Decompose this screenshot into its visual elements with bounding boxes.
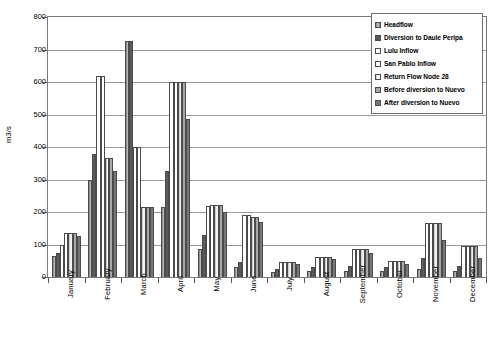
y-tick-label: 800 bbox=[12, 13, 46, 21]
x-tick-mark bbox=[158, 278, 159, 283]
bar bbox=[259, 222, 263, 277]
x-tick-label: December bbox=[468, 266, 477, 302]
y-tick-label: 700 bbox=[12, 46, 46, 54]
legend-label: Return Flow Node 28 bbox=[384, 73, 449, 81]
legend-item: Return Flow Node 28 bbox=[375, 70, 479, 83]
x-tick-label: March bbox=[139, 273, 148, 295]
x-tick-mark bbox=[340, 278, 341, 283]
bar-group-february bbox=[85, 17, 122, 277]
bar bbox=[442, 240, 446, 277]
legend-swatch-icon bbox=[375, 35, 381, 41]
legend-item: Headflow bbox=[375, 18, 479, 31]
x-tick-mark bbox=[121, 278, 122, 283]
bar-group-june bbox=[231, 17, 268, 277]
legend-swatch-icon bbox=[375, 61, 381, 67]
x-tick-mark bbox=[304, 278, 305, 283]
x-tick-mark bbox=[85, 278, 86, 283]
x-label-cell: September bbox=[340, 284, 377, 340]
x-axis-labels: JanuaryFebruaryMarchAprilMayJuneJulyAugu… bbox=[48, 284, 486, 340]
y-axis-title: m3/s bbox=[4, 126, 13, 143]
bar bbox=[296, 264, 300, 277]
legend-swatch-icon bbox=[375, 48, 381, 54]
x-label-cell: April bbox=[158, 284, 195, 340]
x-tick-label: April bbox=[176, 276, 185, 292]
y-tick-label: 400 bbox=[12, 143, 46, 151]
bar-chart: m3/s 0100200300400500600700800 JanuaryFe… bbox=[0, 0, 498, 341]
bar-group-april bbox=[158, 17, 195, 277]
y-tick-label: 0 bbox=[12, 273, 46, 281]
y-tick-label: 500 bbox=[12, 111, 46, 119]
x-tick-mark bbox=[486, 278, 487, 283]
bar bbox=[332, 259, 336, 277]
bar bbox=[77, 236, 81, 277]
legend-label: Before diversion to Nuevo bbox=[384, 86, 465, 94]
y-tick-label: 100 bbox=[12, 241, 46, 249]
x-tick-mark bbox=[377, 278, 378, 283]
x-tick-label: August bbox=[322, 272, 331, 297]
legend-item: Lulu Inflow bbox=[375, 44, 479, 57]
x-label-cell: March bbox=[121, 284, 158, 340]
bar-group-july bbox=[267, 17, 304, 277]
x-tick-mark bbox=[413, 278, 414, 283]
x-label-cell: August bbox=[304, 284, 341, 340]
chart-legend: HeadflowDiversion to Daule PeripaLulu In… bbox=[371, 13, 483, 114]
x-tick-label: September bbox=[358, 265, 367, 304]
legend-label: Diversion to Daule Peripa bbox=[384, 34, 463, 42]
x-tick-mark bbox=[231, 278, 232, 283]
legend-label: Headflow bbox=[384, 21, 413, 29]
x-label-cell: July bbox=[267, 284, 304, 340]
x-label-cell: February bbox=[85, 284, 122, 340]
bar bbox=[186, 119, 190, 277]
bar-group-may bbox=[194, 17, 231, 277]
bar bbox=[369, 253, 373, 277]
legend-item: San Pablo Inflow bbox=[375, 57, 479, 70]
x-tick-mark bbox=[267, 278, 268, 283]
legend-item: Diversion to Daule Peripa bbox=[375, 31, 479, 44]
bar bbox=[405, 264, 409, 277]
bar-group-january bbox=[48, 17, 85, 277]
x-label-cell: October bbox=[377, 284, 414, 340]
x-tick-label: February bbox=[103, 268, 112, 300]
x-tick-mark bbox=[194, 278, 195, 283]
x-tick-mark bbox=[450, 278, 451, 283]
x-label-cell: January bbox=[48, 284, 85, 340]
y-tick-label: 200 bbox=[12, 208, 46, 216]
legend-swatch-icon bbox=[375, 74, 381, 80]
y-tick-label: 600 bbox=[12, 78, 46, 86]
x-label-cell: December bbox=[450, 284, 487, 340]
legend-swatch-icon bbox=[375, 100, 381, 106]
bar bbox=[478, 258, 482, 278]
y-tick-label: 300 bbox=[12, 176, 46, 184]
x-tick-label: May bbox=[212, 277, 221, 292]
legend-swatch-icon bbox=[375, 87, 381, 93]
x-tick-label: November bbox=[431, 266, 440, 302]
x-tick-label: October bbox=[395, 270, 404, 298]
x-label-cell: June bbox=[231, 284, 268, 340]
x-label-cell: November bbox=[413, 284, 450, 340]
bar bbox=[150, 207, 154, 277]
bar-group-august bbox=[304, 17, 341, 277]
x-tick-label: July bbox=[285, 277, 294, 291]
x-label-cell: May bbox=[194, 284, 231, 340]
bar bbox=[223, 212, 227, 277]
legend-label: San Pablo Inflow bbox=[384, 60, 436, 68]
bar bbox=[113, 171, 117, 277]
x-tick-label: January bbox=[66, 270, 75, 298]
legend-item: After diversion to Nuevo bbox=[375, 96, 479, 109]
legend-label: After diversion to Nuevo bbox=[384, 99, 459, 107]
x-tick-label: June bbox=[249, 275, 258, 292]
x-tick-mark bbox=[48, 278, 49, 283]
legend-item: Before diversion to Nuevo bbox=[375, 83, 479, 96]
bar-group-march bbox=[121, 17, 158, 277]
legend-swatch-icon bbox=[375, 22, 381, 28]
legend-label: Lulu Inflow bbox=[384, 47, 418, 55]
